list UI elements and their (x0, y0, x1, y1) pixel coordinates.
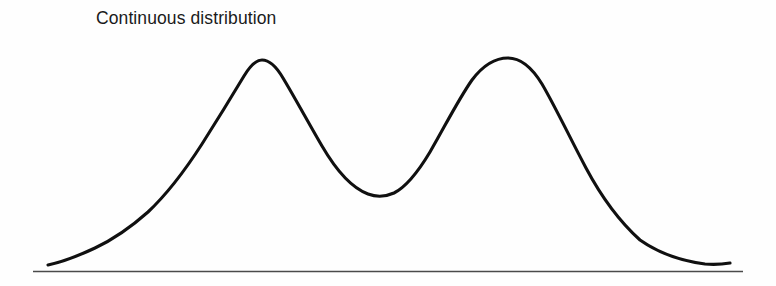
distribution-plot (0, 0, 776, 286)
continuous-distribution-figure: Continuous distribution (0, 0, 776, 286)
density-curve (48, 58, 730, 265)
